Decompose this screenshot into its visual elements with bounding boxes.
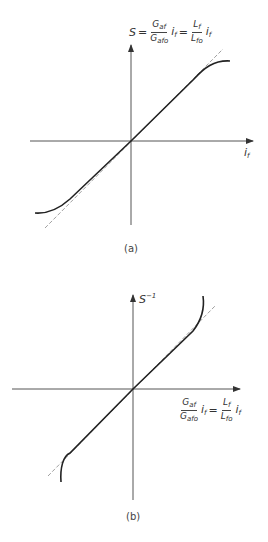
panel-a-caption: (a): [124, 244, 138, 254]
panel-a-x-axis-label: if: [244, 147, 250, 160]
var-if: if: [236, 404, 242, 417]
panel-a: [30, 45, 253, 228]
panel-b-x-axis-label: Gaf Gafo if = Lf Lfo if: [179, 398, 241, 423]
figure-canvas: [0, 0, 268, 542]
label-s: S: [129, 27, 136, 38]
panel-b-caption: (b): [126, 512, 140, 522]
panel-b-y-axis-label: S−1: [139, 293, 156, 305]
var-if: if: [171, 26, 177, 39]
fraction-lf-lfo: Lf Lfo: [190, 20, 204, 45]
var-if: if: [201, 404, 207, 417]
fraction-lf-lfo: Lf Lfo: [220, 398, 234, 423]
panel-a-saturation-curve: [35, 61, 230, 213]
fraction-gaf-gafo: Gaf Gafo: [179, 398, 199, 423]
var-if: if: [206, 26, 212, 39]
fraction-gaf-gafo: Gaf Gafo: [149, 20, 169, 45]
panel-a-y-axis-label: S = Gaf Gafo if = Lf Lfo if: [129, 20, 211, 45]
equals-sign: =: [138, 27, 147, 38]
equals-sign: =: [179, 27, 188, 38]
equals-sign: =: [209, 405, 218, 416]
